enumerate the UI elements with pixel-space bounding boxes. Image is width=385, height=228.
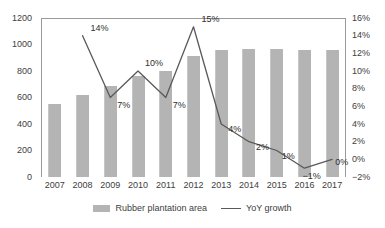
chart-container: 020040060080010001200 −2%0%2%4%6%8%10%12… bbox=[0, 0, 385, 228]
y-tick-left: 0 bbox=[0, 173, 36, 182]
legend-item-yoy-growth: YoY growth bbox=[221, 203, 292, 213]
x-tick-label: 2013 bbox=[211, 180, 231, 191]
y-tick-left: 600 bbox=[0, 93, 36, 102]
y-tick-left: 1200 bbox=[0, 14, 36, 23]
legend-item-rubber-plantation-area: Rubber plantation area bbox=[93, 203, 207, 213]
y-tick-right: 8% bbox=[349, 84, 385, 93]
x-tick-label: 2011 bbox=[156, 180, 175, 191]
y-tick-right: 4% bbox=[349, 120, 385, 129]
x-tick-label: 2012 bbox=[183, 180, 203, 191]
data-label: 10% bbox=[145, 59, 163, 68]
y-tick-left: 1000 bbox=[0, 40, 36, 49]
data-label: 4% bbox=[228, 125, 241, 134]
bar-swatch-icon bbox=[93, 205, 110, 212]
data-label: 1% bbox=[282, 152, 295, 161]
y-axis-right-ticks: −2%0%2%4%6%8%10%12%14%16% bbox=[349, 18, 385, 177]
line-swatch-icon bbox=[221, 208, 241, 209]
y-tick-left: 200 bbox=[0, 146, 36, 155]
data-label: 7% bbox=[173, 101, 186, 110]
data-label: 7% bbox=[117, 101, 130, 110]
x-tick-label: 2009 bbox=[100, 180, 120, 191]
x-tick-label: 2007 bbox=[45, 180, 65, 191]
x-tick-label: 2014 bbox=[239, 180, 259, 191]
x-tick-label: 2008 bbox=[73, 180, 93, 191]
y-tick-right: 14% bbox=[349, 31, 385, 40]
y-tick-right: 10% bbox=[349, 67, 385, 76]
chart-legend: Rubber plantation area YoY growth bbox=[0, 203, 385, 213]
y-tick-right: 2% bbox=[349, 137, 385, 146]
data-label: 2% bbox=[256, 143, 269, 152]
y-tick-left: 800 bbox=[0, 67, 36, 76]
y-tick-right: 0% bbox=[349, 155, 385, 164]
line-series bbox=[41, 18, 346, 177]
y-tick-right: 6% bbox=[349, 102, 385, 111]
y-tick-right: 16% bbox=[349, 14, 385, 23]
x-axis-labels: 2007200820092010201120122013201420152016… bbox=[41, 180, 346, 194]
data-label: 0% bbox=[335, 158, 348, 167]
data-label: 14% bbox=[91, 24, 109, 33]
y-axis-left-ticks: 020040060080010001200 bbox=[0, 18, 36, 177]
y-tick-right: 12% bbox=[349, 49, 385, 58]
x-tick-label: 2017 bbox=[322, 180, 342, 191]
y-tick-right: −2% bbox=[349, 173, 385, 182]
x-tick-label: 2016 bbox=[294, 180, 314, 191]
y-tick-left: 400 bbox=[0, 120, 36, 129]
x-tick-label: 2010 bbox=[128, 180, 148, 191]
legend-label-yoy-growth: YoY growth bbox=[246, 203, 292, 213]
plot-area: 14%7%10%7%15%4%2%1%−1%0% bbox=[41, 18, 346, 177]
x-tick-label: 2015 bbox=[267, 180, 287, 191]
legend-label-rubber-plantation-area: Rubber plantation area bbox=[115, 203, 207, 213]
data-label: 15% bbox=[202, 15, 220, 24]
